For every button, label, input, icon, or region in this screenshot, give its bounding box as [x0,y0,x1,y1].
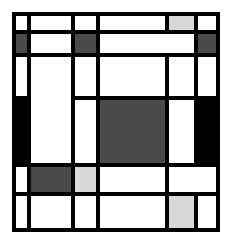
color-block-r4c1 [16,100,27,163]
color-block-r5c2 [31,167,71,192]
color-block-r2c3 [75,34,96,53]
color-block-r6c4 [100,196,165,228]
color-block-r1c4 [100,16,165,30]
color-block-r4c6 [198,100,216,163]
color-block-r6c1 [16,196,27,228]
color-block-r5c4 [100,167,165,192]
color-block-r4c5 [169,100,194,163]
color-block-r2c4 [100,34,194,53]
color-block-r6c6 [198,196,216,228]
mondrian-composition [12,12,220,232]
color-block-r1c3 [75,16,96,30]
color-block-r6c5 [169,196,194,228]
color-block-r1c1 [16,16,27,30]
color-block-r2c2 [31,34,71,53]
color-block-r3c5 [169,57,194,96]
color-block-r6c2 [31,196,71,228]
color-block-r3c4 [100,57,165,96]
color-block-r6c3 [75,196,96,228]
color-block-r1c5 [169,16,194,30]
color-block-r5c5 [169,167,216,192]
color-block-r2c1 [16,34,27,53]
color-block-r3c6 [198,57,216,96]
color-block-r4c3 [75,100,96,163]
color-block-r1c6 [198,16,216,30]
color-block-r3c2 [31,57,71,163]
color-block-r2c6 [198,34,216,53]
color-block-r3c1 [16,57,27,96]
artboard [0,0,232,243]
color-block-r1c2 [31,16,71,30]
color-block-r3c3 [75,57,96,96]
color-block-r5c1 [16,167,27,192]
color-block-r5c3 [75,167,96,192]
color-block-r4c4 [100,100,165,163]
